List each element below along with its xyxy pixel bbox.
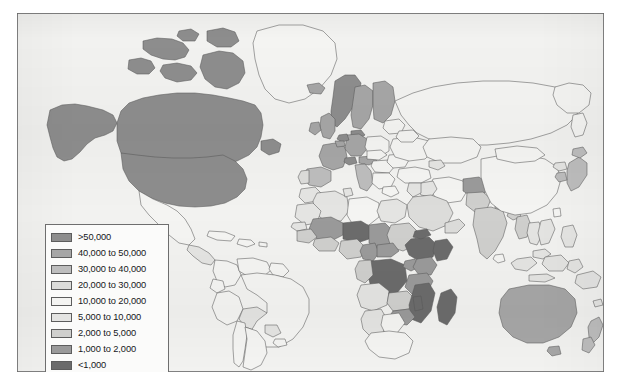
legend-swatch-icon: [51, 281, 72, 290]
legend-item[interactable]: 2,000 to 5,000: [51, 325, 163, 341]
region-malawi: [413, 296, 423, 311]
legend-swatch-icon: [51, 249, 72, 258]
legend-swatch-icon: [51, 345, 72, 354]
legend-swatch-icon: [51, 329, 72, 338]
region-taiwan: [553, 208, 561, 217]
legend-item-label: >50,000: [78, 232, 111, 242]
legend-swatch-icon: [51, 361, 72, 370]
legend-item-label: 40,000 to 50,000: [78, 248, 146, 258]
figure-root: .cty { stroke:#5a5a5a; stroke-width:0.55…: [0, 0, 618, 390]
map-legend: >50,000 40,000 to 50,000 30,000 to 40,00…: [45, 224, 169, 372]
region-turkey: [397, 167, 431, 183]
legend-swatch-icon: [51, 297, 72, 306]
legend-item[interactable]: 5,000 to 10,000: [51, 309, 163, 325]
region-united-kingdom: [320, 113, 335, 139]
legend-item[interactable]: 20,000 to 30,000: [51, 277, 163, 293]
world-map-plate: .cty { stroke:#5a5a5a; stroke-width:0.55…: [17, 13, 604, 372]
region-puerto-rico: [259, 242, 267, 247]
legend-item-label: 10,000 to 20,000: [78, 296, 146, 306]
legend-item-label: 1,000 to 2,000: [78, 344, 136, 354]
legend-item[interactable]: >50,000: [51, 229, 163, 245]
legend-item[interactable]: 1,000 to 2,000: [51, 341, 163, 357]
legend-item-label: 20,000 to 30,000: [78, 280, 146, 290]
legend-swatch-icon: [51, 233, 72, 242]
legend-item[interactable]: 40,000 to 50,000: [51, 245, 163, 261]
legend-item[interactable]: <1,000: [51, 357, 163, 372]
legend-item-label: 2,000 to 5,000: [78, 328, 136, 338]
legend-item-label: 30,000 to 40,000: [78, 264, 146, 274]
legend-swatch-icon: [51, 313, 72, 322]
legend-item[interactable]: 10,000 to 20,000: [51, 293, 163, 309]
region-tunisia: [343, 188, 353, 197]
region-france: [319, 143, 347, 170]
legend-item-label: <1,000: [78, 360, 106, 370]
legend-item-label: 5,000 to 10,000: [78, 312, 141, 322]
region-belgium: [335, 141, 345, 147]
legend-item[interactable]: 30,000 to 40,000: [51, 261, 163, 277]
region-libya: [347, 197, 379, 225]
legend-swatch-icon: [51, 265, 72, 274]
